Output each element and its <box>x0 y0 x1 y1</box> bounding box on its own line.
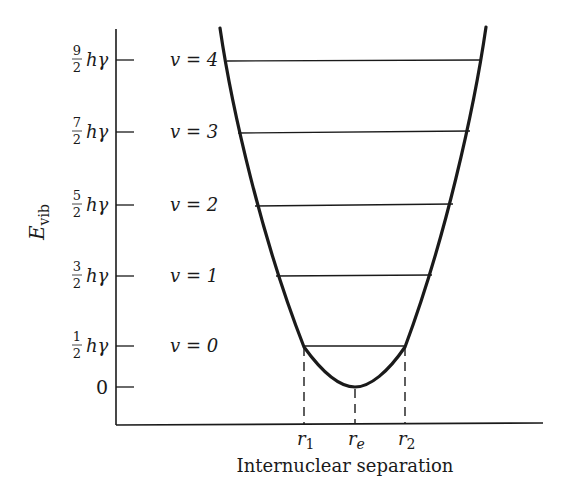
level-v4 <box>227 60 481 61</box>
svg-text:Evib: Evib <box>25 204 52 241</box>
svg-text:hγ: hγ <box>86 335 109 356</box>
svg-text:hγ: hγ <box>86 265 109 286</box>
y-axis-label: Evib <box>25 204 52 241</box>
svg-text:v = 4: v = 4 <box>170 49 218 70</box>
svg-text:r2: r2 <box>398 428 416 452</box>
svg-text:5: 5 <box>73 188 81 203</box>
y-tick-label-9-2: 9 2 hγ <box>72 43 109 75</box>
svg-text:9: 9 <box>73 43 81 58</box>
potential-curve <box>220 27 486 387</box>
y-tick-label-5-2: 5 2 hγ <box>72 188 109 220</box>
svg-text:1: 1 <box>73 329 81 344</box>
energy-level-diagram: Evib 9 2 hγ 7 2 hγ 5 2 hγ 3 2 hγ 1 2 <box>0 0 569 493</box>
svg-text:v = 1: v = 1 <box>170 265 218 286</box>
svg-text:2: 2 <box>73 205 81 220</box>
svg-text:re: re <box>348 428 365 452</box>
level-labels: v = 4 v = 3 v = 2 v = 1 v = 0 <box>170 49 218 356</box>
svg-text:2: 2 <box>73 346 81 361</box>
x-axis <box>116 423 543 425</box>
svg-text:2: 2 <box>73 132 81 147</box>
level-v2 <box>255 204 453 206</box>
svg-text:v = 0: v = 0 <box>170 335 218 356</box>
svg-text:hγ: hγ <box>86 194 109 215</box>
x-axis-label: Internuclear separation <box>237 455 454 476</box>
x-marker-labels: r1 re r2 <box>297 428 416 452</box>
level-v1 <box>276 275 432 276</box>
svg-text:2: 2 <box>73 276 81 291</box>
y-tick-label-1-2: 1 2 hγ <box>72 329 109 361</box>
energy-levels <box>227 60 481 346</box>
y-tick-label-3-2: 3 2 hγ <box>72 259 109 291</box>
svg-text:r1: r1 <box>297 428 315 452</box>
svg-text:hγ: hγ <box>86 49 109 70</box>
svg-text:7: 7 <box>73 115 81 130</box>
y-tick-label-zero: 0 <box>96 376 108 398</box>
svg-text:hγ: hγ <box>86 121 109 142</box>
svg-text:v = 2: v = 2 <box>170 194 218 215</box>
y-ticks <box>116 60 134 387</box>
level-v3 <box>238 131 470 133</box>
y-tick-label-7-2: 7 2 hγ <box>72 115 109 147</box>
svg-text:2: 2 <box>73 60 81 75</box>
svg-text:v = 3: v = 3 <box>170 121 218 142</box>
svg-text:3: 3 <box>73 259 81 274</box>
